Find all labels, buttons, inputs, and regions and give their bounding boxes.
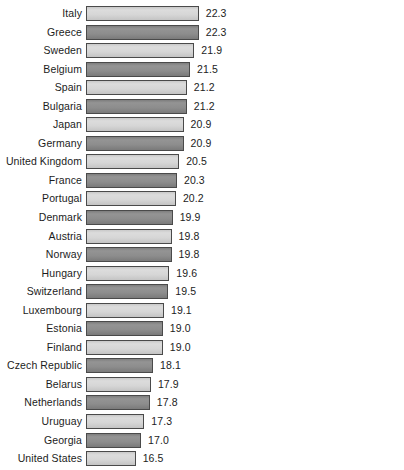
bar-chart-row: Austria19.8 bbox=[0, 229, 404, 248]
bar-chart-row: Belarus17.9 bbox=[0, 377, 404, 396]
value-label: 21.5 bbox=[197, 62, 218, 77]
bar-track bbox=[86, 451, 136, 466]
bar bbox=[86, 451, 136, 466]
bar bbox=[86, 173, 177, 188]
bar bbox=[86, 136, 184, 151]
bar bbox=[86, 191, 176, 206]
value-label: 19.9 bbox=[180, 210, 201, 225]
bar-chart-row: Italy22.3 bbox=[0, 6, 404, 25]
bar bbox=[86, 414, 144, 429]
category-label: Luxembourg bbox=[0, 303, 82, 318]
category-label: Norway bbox=[0, 247, 82, 262]
value-label: 20.9 bbox=[191, 117, 212, 132]
bar-chart-row: Greece22.3 bbox=[0, 25, 404, 44]
bar-track bbox=[86, 229, 172, 244]
bar bbox=[86, 395, 150, 410]
bar-chart-row: Finland19.0 bbox=[0, 340, 404, 359]
bar-chart-row: Germany20.9 bbox=[0, 136, 404, 155]
bar-chart-row: Portugal20.2 bbox=[0, 191, 404, 210]
bar-chart-row: Uruguay17.3 bbox=[0, 414, 404, 433]
bar-track bbox=[86, 6, 199, 21]
value-label: 16.5 bbox=[143, 451, 164, 466]
bar-track bbox=[86, 173, 177, 188]
category-label: Belarus bbox=[0, 377, 82, 392]
bar-track bbox=[86, 284, 168, 299]
value-label: 20.3 bbox=[184, 173, 205, 188]
category-label: Czech Republic bbox=[0, 358, 82, 373]
bar bbox=[86, 43, 194, 58]
category-label: Austria bbox=[0, 229, 82, 244]
value-label: 22.3 bbox=[206, 25, 227, 40]
value-label: 19.0 bbox=[170, 340, 191, 355]
value-label: 19.1 bbox=[171, 303, 192, 318]
bar bbox=[86, 62, 190, 77]
bar-track bbox=[86, 303, 164, 318]
category-label: Portugal bbox=[0, 191, 82, 206]
bar-chart-row: Bulgaria21.2 bbox=[0, 99, 404, 118]
bar-track bbox=[86, 266, 169, 281]
category-label: Uruguay bbox=[0, 414, 82, 429]
bar-chart-row: Netherlands17.8 bbox=[0, 395, 404, 414]
bar bbox=[86, 154, 179, 169]
bar-track bbox=[86, 136, 184, 151]
bar-track bbox=[86, 191, 176, 206]
value-label: 19.8 bbox=[179, 229, 200, 244]
bar-chart-row: Hungary19.6 bbox=[0, 266, 404, 285]
bar bbox=[86, 321, 163, 336]
bar-chart-row: France20.3 bbox=[0, 173, 404, 192]
bar-track bbox=[86, 117, 184, 132]
category-label: Hungary bbox=[0, 266, 82, 281]
bar-chart-row: Belgium21.5 bbox=[0, 62, 404, 81]
bar-chart: Italy22.3Greece22.3Sweden21.9Belgium21.5… bbox=[0, 0, 404, 470]
value-label: 17.8 bbox=[157, 395, 178, 410]
bar-track bbox=[86, 62, 190, 77]
value-label: 19.8 bbox=[179, 247, 200, 262]
bar-track bbox=[86, 433, 141, 448]
category-label: Denmark bbox=[0, 210, 82, 225]
category-label: Sweden bbox=[0, 43, 82, 58]
value-label: 19.6 bbox=[176, 266, 197, 281]
bar-chart-row: Switzerland19.5 bbox=[0, 284, 404, 303]
category-label: Switzerland bbox=[0, 284, 82, 299]
bar-track bbox=[86, 43, 194, 58]
bar-chart-row: Sweden21.9 bbox=[0, 43, 404, 62]
bar bbox=[86, 377, 151, 392]
bar-track bbox=[86, 247, 172, 262]
bar-chart-row: Norway19.8 bbox=[0, 247, 404, 266]
bar-chart-row: Czech Republic18.1 bbox=[0, 358, 404, 377]
bar bbox=[86, 284, 168, 299]
bar-track bbox=[86, 80, 187, 95]
value-label: 18.1 bbox=[160, 358, 181, 373]
bar-track bbox=[86, 358, 153, 373]
bar bbox=[86, 358, 153, 373]
category-label: France bbox=[0, 173, 82, 188]
bar bbox=[86, 229, 172, 244]
category-label: Estonia bbox=[0, 321, 82, 336]
bar-track bbox=[86, 99, 187, 114]
value-label: 19.0 bbox=[170, 321, 191, 336]
value-label: 19.5 bbox=[175, 284, 196, 299]
category-label: Belgium bbox=[0, 62, 82, 77]
value-label: 22.3 bbox=[206, 6, 227, 21]
bar-chart-row: Spain21.2 bbox=[0, 80, 404, 99]
bar-chart-row: Luxembourg19.1 bbox=[0, 303, 404, 322]
bar bbox=[86, 80, 187, 95]
bar-chart-rows: Italy22.3Greece22.3Sweden21.9Belgium21.5… bbox=[0, 6, 404, 470]
category-label: Germany bbox=[0, 136, 82, 151]
bar bbox=[86, 117, 184, 132]
value-label: 21.2 bbox=[194, 99, 215, 114]
bar-track bbox=[86, 340, 163, 355]
bar-chart-row: United Kingdom20.5 bbox=[0, 154, 404, 173]
bar-track bbox=[86, 154, 179, 169]
bar-chart-row: Denmark19.9 bbox=[0, 210, 404, 229]
category-label: Bulgaria bbox=[0, 99, 82, 114]
bar bbox=[86, 266, 169, 281]
value-label: 20.9 bbox=[191, 136, 212, 151]
value-label: 17.0 bbox=[148, 433, 169, 448]
category-label: Greece bbox=[0, 25, 82, 40]
bar-track bbox=[86, 395, 150, 410]
category-label: Spain bbox=[0, 80, 82, 95]
category-label: Finland bbox=[0, 340, 82, 355]
category-label: Georgia bbox=[0, 433, 82, 448]
bar-chart-row: Japan20.9 bbox=[0, 117, 404, 136]
